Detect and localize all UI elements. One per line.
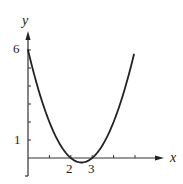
x-tick-label-2: 2 <box>66 161 73 176</box>
x-axis-arrow-icon <box>155 156 164 161</box>
y-axis-arrow-icon <box>26 31 31 40</box>
x-axis-label: x <box>169 150 177 165</box>
y-tick-label-6: 6 <box>13 41 20 56</box>
y-axis-label: y <box>20 13 29 28</box>
parabola-curve <box>28 50 134 162</box>
x-tick-label-3: 3 <box>88 161 95 176</box>
parabola-chart: y x 6 1 2 3 <box>0 0 183 184</box>
y-tick-label-1: 1 <box>14 132 21 147</box>
x-axis <box>28 155 164 161</box>
